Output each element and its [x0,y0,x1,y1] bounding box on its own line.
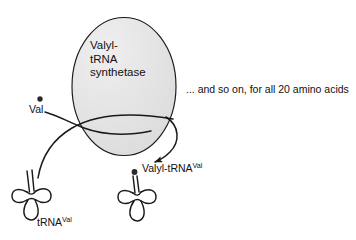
aminoacyl-trna-synthetase-diagram: Valyl- tRNA synthetase ... and so on, fo… [0,0,356,240]
diagram-canvas [0,0,356,240]
trna-cloverleaf [12,170,51,220]
val-label: Val [29,103,43,115]
enzyme-label-line-3: synthetase [90,66,146,80]
valyl-trna-label-superscript: Val [193,161,203,170]
valyl-trna-label-main: Valyl-tRNA [142,162,193,174]
valyl-amino-acid-dot [132,169,138,175]
enzyme-label: Valyl- tRNA synthetase [90,39,146,80]
enzyme-label-line-2: tRNA [90,53,146,67]
val-amino-acid-dot [37,96,42,101]
enzyme-label-line-1: Valyl- [90,39,146,53]
trna-label-superscript: Val [62,215,72,224]
trna-label: tRNAVal [37,216,72,228]
trna-label-main: tRNA [37,216,62,228]
valyl-trna-label: Valyl-tRNAVal [142,162,202,174]
caption-text: ... and so on, for all 20 amino acids [186,83,349,95]
valyl-trna-cloverleaf [118,176,156,221]
